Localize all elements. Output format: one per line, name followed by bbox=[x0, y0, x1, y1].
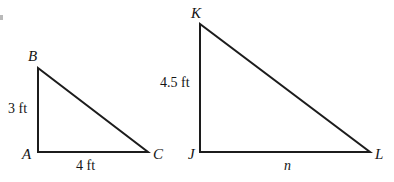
similar-triangles-figure: A B C 3 ft 4 ft J K L 4.5 ft n bbox=[0, 0, 394, 182]
side-label-jl: n bbox=[284, 159, 291, 173]
vertex-label-b: B bbox=[28, 49, 37, 64]
side-label-jk: 4.5 ft bbox=[160, 76, 190, 90]
triangle-jkl-shape bbox=[200, 24, 370, 152]
side-label-ab: 3 ft bbox=[8, 102, 27, 116]
vertex-label-l: L bbox=[375, 147, 383, 162]
triangle-jkl-outline bbox=[200, 24, 370, 152]
side-label-ac: 4 ft bbox=[76, 159, 95, 173]
triangle-abc-outline bbox=[38, 68, 148, 152]
triangles-drawing bbox=[0, 0, 394, 182]
vertex-label-a: A bbox=[22, 147, 31, 162]
vertex-label-j: J bbox=[188, 147, 195, 162]
vertex-label-k: K bbox=[191, 6, 201, 21]
vertex-label-c: C bbox=[153, 147, 163, 162]
triangle-abc-shape bbox=[38, 68, 148, 152]
